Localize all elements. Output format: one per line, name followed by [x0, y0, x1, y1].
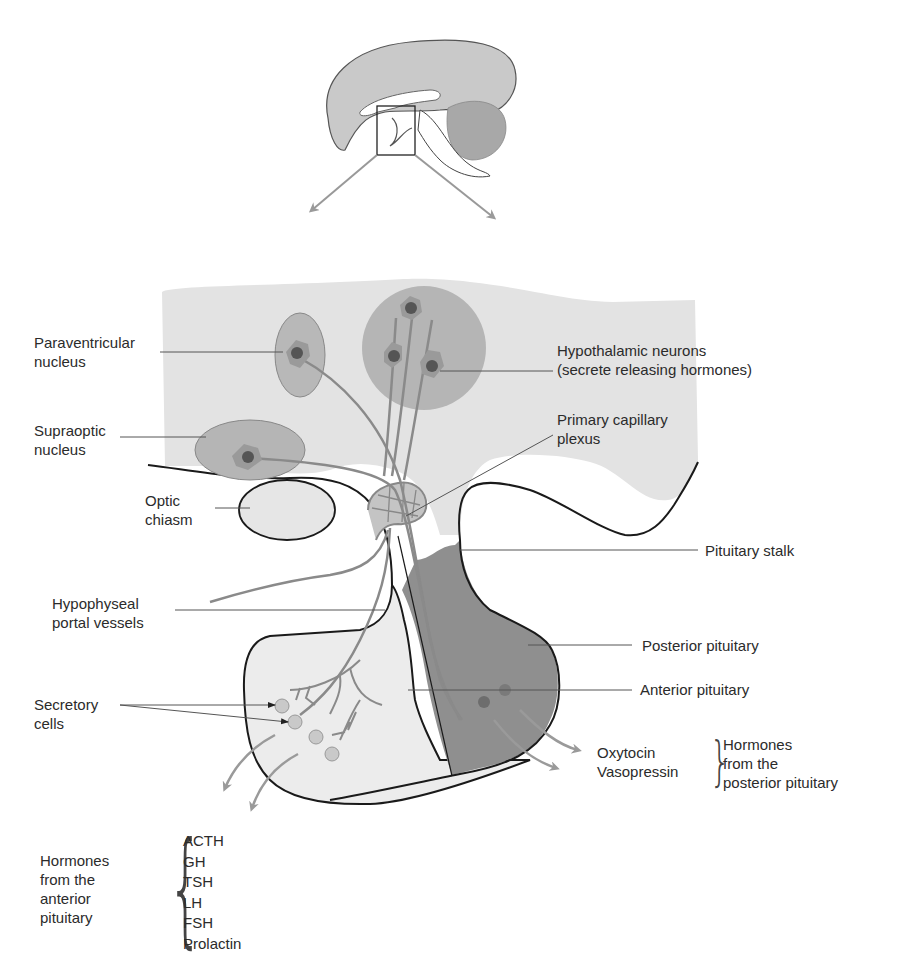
label-anterior-pituitary: Anterior pituitary	[640, 680, 749, 699]
posterior-hormone-list: OxytocinVasopressin	[597, 743, 678, 781]
primary-capillary-plexus	[368, 483, 426, 540]
posterior-hormone-group-label: Hormonesfrom theposterior pituitary	[723, 735, 838, 792]
brain-thumbnail	[312, 40, 516, 217]
label-optic-chiasm: Opticchiasm	[145, 491, 193, 529]
label-secretory-cells: Secretorycells	[34, 695, 98, 733]
optic-chiasm	[239, 480, 335, 540]
zoom-region-box	[377, 106, 415, 155]
anterior-hormone-list: ACTHGHTSHLHFSHProlactin	[183, 831, 241, 954]
label-hypothalamic-neurons: Hypothalamic neurons(secrete releasing h…	[557, 341, 752, 379]
hypothalamic-neuron-cluster	[362, 286, 486, 410]
axon-terminal-1	[478, 696, 490, 708]
label-pituitary-stalk: Pituitary stalk	[705, 541, 794, 560]
anterior-hormone-group-label: Hormonesfrom theanteriorpituitary	[40, 851, 109, 927]
pituitary-diagram	[0, 0, 899, 976]
label-supraoptic-nucleus: Supraopticnucleus	[34, 421, 106, 459]
label-primary-capillary-plexus: Primary capillaryplexus	[557, 410, 668, 448]
label-hypophyseal-portal-vessels: Hypophysealportal vessels	[52, 594, 144, 632]
zoom-arrow-left	[312, 155, 377, 210]
label-paraventricular-nucleus: Paraventricularnucleus	[34, 333, 135, 371]
label-posterior-pituitary: Posterior pituitary	[642, 636, 759, 655]
brain-thalamus-region	[390, 118, 412, 146]
